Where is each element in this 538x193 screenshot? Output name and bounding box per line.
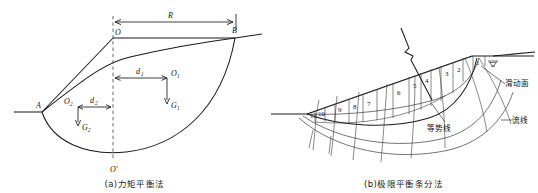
svg-text:1: 1: [177, 105, 180, 111]
label-center-O: O: [115, 28, 121, 37]
panel-moment-equilibrium: O O' A B R d 1 O 1 G 1 d 2 O 2: [0, 0, 269, 193]
label-point-B: B: [232, 26, 237, 35]
slice-number-3: 3: [445, 70, 449, 78]
caption-panel-b: (b)极限平衡条分法: [269, 177, 538, 189]
svg-text:1: 1: [141, 71, 144, 77]
equipotential-4: [381, 84, 387, 162]
slice-number-6: 6: [397, 89, 401, 97]
equipotential-stub-1: [309, 130, 313, 148]
slice-number-11: 11: [310, 112, 317, 120]
label-radius-R: R: [167, 11, 173, 20]
water-table-icon: [488, 61, 498, 67]
label-slip-surface: 滑动面: [505, 78, 529, 88]
slice-number-5: 5: [413, 82, 417, 90]
slice-number-8: 8: [353, 103, 357, 111]
svg-text:2: 2: [88, 127, 91, 133]
svg-text:2: 2: [95, 100, 98, 106]
diagram-a-svg: O O' A B R d 1 O 1 G 1 d 2 O 2: [0, 0, 269, 193]
slice-number-9: 9: [338, 106, 342, 114]
label-equipotential-line: 等势线: [427, 123, 451, 133]
label-weight-G2: G 2: [82, 123, 91, 133]
equipotential-6: [439, 68, 445, 148]
label-center-O-prime: O': [110, 165, 118, 174]
slice-number-1: 1: [476, 59, 480, 67]
svg-text:2: 2: [70, 101, 73, 107]
label-centroid-O1: O 1: [171, 69, 180, 79]
diagram-b-svg: 11 10 9 8 7 6 5 4 3 2 1 滑动面 等势线 流线: [269, 0, 538, 193]
panel-slice-method: 11 10 9 8 7 6 5 4 3 2 1 滑动面 等势线 流线 (b)极限…: [269, 0, 538, 193]
slice-number-7: 7: [367, 100, 371, 108]
label-flow-line: 流线: [512, 115, 528, 125]
ground-line-right-b: [493, 52, 535, 56]
label-centroid-O2: O 2: [64, 97, 73, 107]
slope-face-line: [42, 38, 113, 112]
svg-text:1: 1: [177, 73, 180, 79]
slice-number-4: 4: [425, 77, 429, 85]
break-line-icon: [401, 28, 432, 100]
flow-line-outer-1: [303, 80, 501, 143]
ground-line-right: [235, 34, 262, 38]
equipotential-7: [465, 58, 487, 132]
slice-number-2: 2: [457, 66, 461, 74]
figure-container: O O' A B R d 1 O 1 G 1 d 2 O 2: [0, 0, 538, 193]
label-weight-G1: G 1: [171, 101, 180, 111]
equipotential-stub-2: [329, 136, 331, 154]
caption-panel-a: (a)力矩平衡法: [0, 177, 269, 189]
label-point-A: A: [35, 101, 41, 110]
label-arm-d1: d 1: [136, 67, 144, 77]
slice-number-10: 10: [318, 110, 326, 118]
slip-surface-b: [307, 58, 477, 125]
label-arm-d2: d 2: [90, 96, 98, 106]
